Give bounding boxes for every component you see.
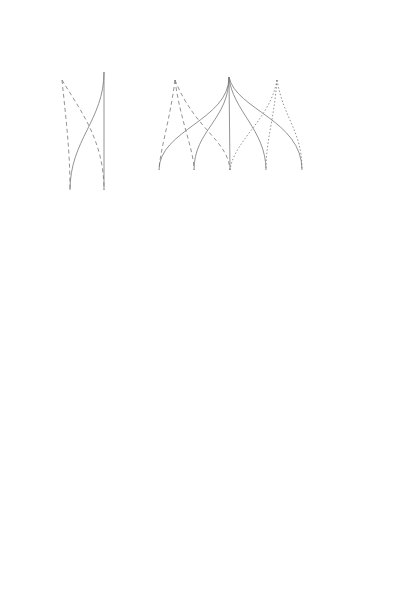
connector-lines bbox=[62, 72, 302, 190]
dashed-connector bbox=[175, 80, 230, 170]
dashed-connector bbox=[62, 80, 70, 190]
dashed-connector bbox=[159, 80, 175, 170]
solid-connector bbox=[229, 77, 230, 170]
dotted-connector bbox=[277, 80, 302, 170]
solid-connector bbox=[194, 77, 229, 170]
flow-diagram bbox=[0, 0, 400, 613]
solid-connector bbox=[159, 77, 229, 170]
dotted-connector bbox=[266, 80, 277, 170]
dashed-connector bbox=[175, 80, 194, 170]
solid-connector bbox=[70, 72, 104, 190]
dotted-connector bbox=[230, 80, 277, 170]
dashed-connector bbox=[62, 80, 104, 190]
